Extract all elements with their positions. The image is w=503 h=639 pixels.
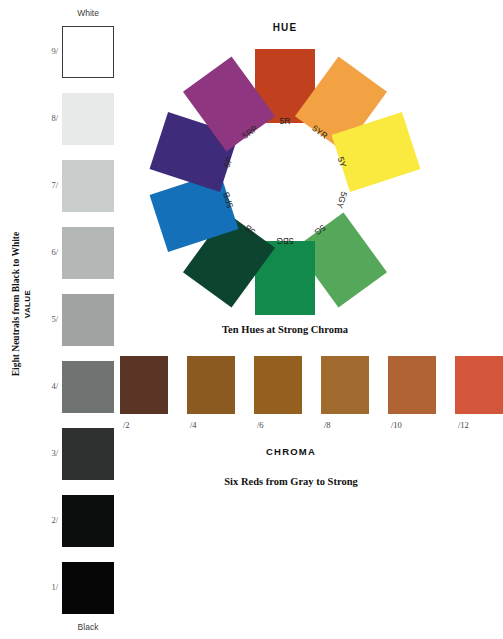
chroma-swatch-2 <box>120 356 168 414</box>
chroma-step-label: /6 <box>254 420 302 430</box>
value-swatch-6 <box>62 227 114 279</box>
chroma-title: CHROMA <box>110 446 472 457</box>
value-scale-top-label: White <box>58 8 118 18</box>
hue-wheel-section: HUE 5R5YR5Y5GY5G5BG5B5PB5P5RP Ten Hues a… <box>140 18 472 348</box>
value-step-label: 4/ <box>36 381 58 391</box>
value-swatch-4 <box>62 361 114 413</box>
value-axis-caption: Eight Neutrals from Black to White VALUE <box>10 189 34 419</box>
chroma-swatch-10 <box>388 356 436 414</box>
value-step-label: 2/ <box>36 515 58 525</box>
value-scale-column: White Black 9/8/7/6/5/4/3/2/1/ Eight Neu… <box>0 0 130 639</box>
value-step-label: 3/ <box>36 448 58 458</box>
value-step-label: 6/ <box>36 247 58 257</box>
value-swatch-5 <box>62 294 114 346</box>
value-swatch-8 <box>62 93 114 145</box>
value-axis-caption-text: Eight Neutrals from Black to White <box>11 232 21 377</box>
value-step-label: 1/ <box>36 582 58 592</box>
value-swatch-3 <box>62 428 114 480</box>
chroma-caption: Six Reds from Gray to Strong <box>110 476 472 487</box>
value-scale-bottom-label: Black <box>58 622 118 632</box>
chroma-step-label: /2 <box>120 420 168 430</box>
chroma-step-label: /12 <box>455 420 503 430</box>
hue-caption: Ten Hues at Strong Chroma <box>140 324 430 335</box>
value-swatch-2 <box>62 495 114 547</box>
value-step-label: 8/ <box>36 113 58 123</box>
value-step-label: 5/ <box>36 314 58 324</box>
value-step-label: 7/ <box>36 180 58 190</box>
value-swatch-1 <box>62 562 114 614</box>
chroma-scale-section: /2/4/6/8/10/12 CHROMA Six Reds from Gray… <box>110 352 472 502</box>
value-step-label: 9/ <box>36 46 58 56</box>
chroma-swatch-4 <box>187 356 235 414</box>
value-swatch-9 <box>62 26 114 78</box>
chroma-step-label: /10 <box>388 420 436 430</box>
hue-wheel: 5R5YR5Y5GY5G5BG5B5PB5P5RP <box>140 40 472 325</box>
chroma-swatch-12 <box>455 356 503 414</box>
chroma-step-label: /8 <box>321 420 369 430</box>
chroma-step-label: /4 <box>187 420 235 430</box>
value-axis-sub-caption: VALUE <box>22 189 34 419</box>
hue-title: HUE <box>140 22 430 33</box>
chroma-swatch-8 <box>321 356 369 414</box>
value-swatch-7 <box>62 160 114 212</box>
chroma-swatch-6 <box>254 356 302 414</box>
